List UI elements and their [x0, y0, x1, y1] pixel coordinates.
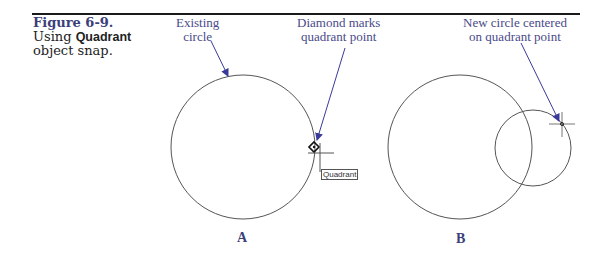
quadrant-diamond-icon — [309, 142, 319, 152]
leader-arrow-new-circle — [521, 43, 559, 121]
existing-circle-a — [171, 75, 315, 219]
new-circle — [495, 110, 571, 186]
panel-label-b: B — [456, 231, 465, 247]
leader-arrow-existing — [211, 41, 228, 76]
diagram-canvas — [0, 0, 607, 259]
panel-label-a: A — [237, 230, 247, 246]
existing-circle-b — [388, 75, 532, 219]
leader-arrow-diamond — [317, 48, 345, 140]
quadrant-tooltip: Quadrant — [321, 169, 358, 180]
